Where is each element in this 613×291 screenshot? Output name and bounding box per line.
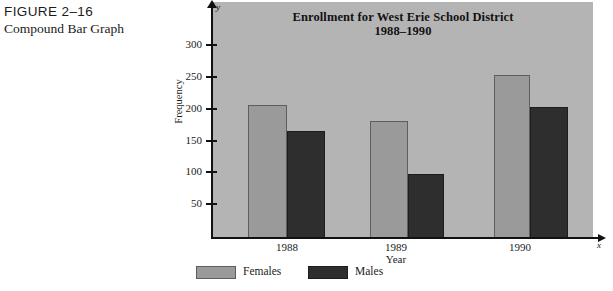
legend-swatch-males	[308, 266, 348, 279]
bar-males-1990	[530, 107, 568, 239]
legend-swatch-females	[196, 266, 236, 279]
bar-females-1989	[370, 121, 408, 239]
chart-plot-area: Enrollment for West Erie School District…	[213, 2, 593, 238]
legend-label-females: Females	[243, 265, 281, 277]
figure-title: Compound Bar Graph	[4, 21, 179, 37]
y-tick-label-300: 300	[172, 38, 202, 50]
y-tick-label-50: 50	[172, 197, 202, 209]
bar-males-1989	[408, 174, 444, 239]
y-tick-150	[206, 140, 217, 142]
chart-title-line1: Enrollment for West Erie School District	[293, 10, 514, 24]
x-tick-label-1989: 1989	[361, 241, 431, 253]
y-tick-300	[206, 44, 217, 46]
y-axis-letter: y	[216, 2, 220, 12]
y-tick-200	[206, 108, 217, 110]
bar-females-1988	[248, 105, 287, 239]
chart-title: Enrollment for West Erie School District…	[213, 10, 593, 38]
chart-title-line2: 1988–1990	[213, 24, 593, 38]
x-axis-line	[211, 237, 600, 239]
x-axis-title: Year	[361, 253, 431, 265]
legend-label-males: Males	[355, 265, 383, 277]
y-tick-100	[206, 171, 217, 173]
figure-number: FIGURE 2–16	[4, 4, 179, 19]
x-tick-label-1990: 1990	[485, 241, 555, 253]
figure-page: FIGURE 2–16 Compound Bar Graph Enrollmen…	[0, 0, 613, 291]
bar-males-1988	[287, 131, 325, 239]
y-tick-50	[206, 203, 217, 205]
y-tick-250	[206, 76, 217, 78]
bar-females-1990	[494, 75, 530, 239]
y-axis-title: Frequency	[173, 72, 184, 132]
figure-caption: FIGURE 2–16 Compound Bar Graph	[4, 4, 179, 37]
x-tick-label-1988: 1988	[252, 241, 322, 253]
x-axis-letter: x	[597, 240, 601, 250]
y-tick-label-100: 100	[172, 165, 202, 177]
y-tick-label-150: 150	[172, 134, 202, 146]
